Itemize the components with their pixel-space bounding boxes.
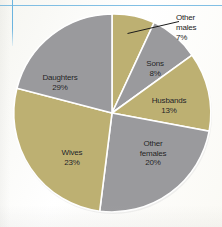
pie-label-other-females: Other females 20% bbox=[127, 139, 179, 168]
pie-label-wives: Wives 23% bbox=[48, 148, 96, 167]
pie-label-other-males-percent: 7% bbox=[176, 33, 220, 43]
pie-label-wives-percent: 23% bbox=[48, 158, 96, 168]
pie-label-husbands-percent: 13% bbox=[142, 106, 196, 116]
pie-label-other-females-line1: Other bbox=[143, 139, 162, 148]
pie-label-daughters: Daughters 29% bbox=[30, 73, 90, 92]
pie-label-sons-name: Sons bbox=[146, 59, 163, 68]
pie-label-wives-name: Wives bbox=[62, 148, 83, 157]
pie-label-other-males: Other males 7% bbox=[176, 13, 220, 43]
pie-chart-figure: Other males 7% Sons 8% Husbands 13% Othe… bbox=[0, 0, 222, 227]
pie-label-daughters-percent: 29% bbox=[30, 83, 90, 93]
pie-label-daughters-name: Daughters bbox=[42, 73, 77, 82]
pie-label-sons-percent: 8% bbox=[137, 69, 173, 79]
pie-label-other-females-line2: females bbox=[127, 149, 179, 159]
pie-label-sons: Sons 8% bbox=[137, 59, 173, 78]
pie-label-other-males-line2: males bbox=[176, 23, 220, 33]
pie-label-other-males-line1: Other bbox=[176, 13, 220, 23]
pie-label-other-females-percent: 20% bbox=[127, 158, 179, 168]
pie-label-husbands: Husbands 13% bbox=[142, 96, 196, 115]
pie-label-husbands-name: Husbands bbox=[152, 96, 186, 105]
